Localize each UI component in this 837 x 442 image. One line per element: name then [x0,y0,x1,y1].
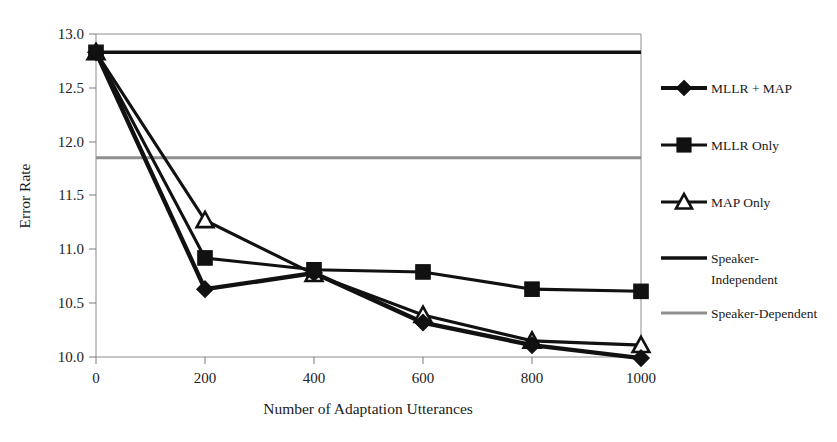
legend-label: MLLR + MAP [711,81,792,96]
legend-label: MAP Only [711,195,770,210]
x-tick-label: 400 [303,370,326,386]
x-tick-label: 1000 [626,370,656,386]
series-lines [96,52,641,358]
line-chart: 10.0 10.5 11.0 11.5 12.0 12.5 13.0 0 200… [0,0,837,442]
plot-frame [96,34,641,357]
chart-figure: 10.0 10.5 11.0 11.5 12.0 12.5 13.0 0 200… [0,0,837,442]
legend-entry-map-only[interactable]: MAP Only [661,194,770,210]
x-axis-title: Number of Adaptation Utterances [263,400,473,417]
square-icon [677,138,691,152]
diamond-marker [197,281,213,297]
legend-entry-mllr-map[interactable]: MLLR + MAP [661,81,792,97]
chart-legend: MLLR + MAP MLLR Only MAP Only Speaker- I… [661,81,817,322]
x-tick-label: 200 [194,370,217,386]
series-line-mllr-only [96,52,641,291]
y-tick-label: 12.0 [58,134,84,150]
legend-entry-speaker-independent[interactable]: Speaker- Independent [661,251,778,287]
legend-label: Speaker- [711,251,759,266]
y-axis-title: Error Rate [16,163,33,228]
x-tick-label: 800 [521,370,544,386]
y-tick-label: 11.5 [58,187,84,203]
x-tick-label: 0 [92,370,100,386]
triangle-marker [197,212,214,227]
x-tick-label: 600 [412,370,435,386]
legend-label-line2: Independent [711,272,778,287]
y-tick-label: 10.0 [58,349,84,365]
square-marker [634,284,648,298]
y-tick-label: 12.5 [58,80,84,96]
square-marker [525,282,539,296]
y-tick-label: 10.5 [58,295,84,311]
reference-lines [96,52,641,158]
square-marker [198,251,212,265]
square-marker [416,265,430,279]
legend-entry-mllr-only[interactable]: MLLR Only [661,138,779,153]
x-axis-ticks: 0 200 400 600 800 1000 [92,357,656,386]
diamond-icon [677,81,692,96]
series-line-map-only [96,52,641,345]
legend-entry-speaker-dependent[interactable]: Speaker-Dependent [661,306,817,321]
legend-label: Speaker-Dependent [711,306,817,321]
y-tick-label: 13.0 [58,26,84,42]
series-markers-mllr-map [88,44,649,366]
y-tick-label: 11.0 [58,241,84,257]
y-axis-ticks: 10.0 10.5 11.0 11.5 12.0 12.5 13.0 [58,26,96,365]
legend-label: MLLR Only [711,138,779,153]
